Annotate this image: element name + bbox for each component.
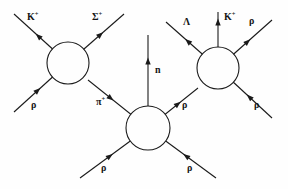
label-rho-mid-right-symbol: ρ [182, 99, 187, 110]
label-sigma-plus-charge: + [99, 10, 103, 17]
label-neutron-symbol: n [155, 64, 161, 75]
label-k-plus-left-charge: + [35, 10, 39, 17]
label-rho-left-symbol: ρ [31, 99, 36, 110]
label-rho-bottom-right: ρ [187, 163, 192, 173]
label-rho-mid-right: ρ [182, 100, 187, 110]
left-vertex-blob [47, 42, 89, 84]
label-neutron: n [155, 65, 161, 75]
label-k-plus-right-symbol: K [224, 11, 232, 22]
label-rho-far-right: ρ [254, 100, 259, 110]
label-k-plus-left-symbol: K [27, 11, 35, 22]
right-vertex-blob [197, 47, 239, 89]
label-lambda: Λ [183, 17, 190, 27]
label-k-plus-right-charge: + [232, 10, 236, 17]
label-k-plus-left: K+ [27, 11, 39, 22]
label-rho-top-right: ρ [249, 16, 254, 26]
middle-vertex-blob [126, 106, 170, 150]
label-rho-bottom-right-symbol: ρ [187, 162, 192, 173]
label-rho-far-right-symbol: ρ [254, 99, 259, 110]
line-neutron-out-arrowhead [145, 58, 150, 65]
label-rho-top-right-symbol: ρ [249, 15, 254, 26]
label-lambda-symbol: Λ [183, 16, 190, 27]
particle-diagram-canvas: K+Σ+ΛK+ρnρπ+ρρρρ [0, 0, 288, 189]
label-pi-plus: π+ [96, 96, 105, 107]
label-rho-bottom-left-symbol: ρ [101, 162, 106, 173]
label-rho-bottom-left: ρ [101, 163, 106, 173]
line-proton-in-bottom-left-arrowhead [106, 154, 113, 160]
label-sigma-plus: Σ+ [92, 11, 102, 22]
label-pi-plus-charge: + [101, 95, 105, 102]
line-proton-in-bottom-right-arrowhead [183, 154, 190, 160]
label-rho-left: ρ [31, 100, 36, 110]
label-k-plus-right: K+ [224, 11, 236, 22]
diagram-svg [0, 0, 288, 189]
line-k-plus-up-out-arrowhead [215, 19, 220, 26]
